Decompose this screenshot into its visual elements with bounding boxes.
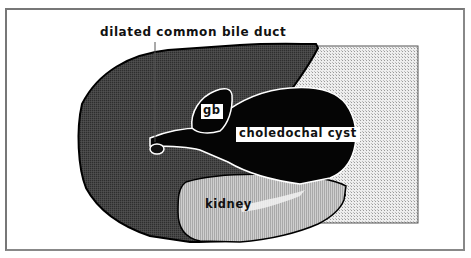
label-kidney: kidney bbox=[205, 199, 252, 211]
label-gb: gb bbox=[201, 104, 223, 119]
label-choledochal-cyst: choledochal cyst bbox=[236, 127, 360, 142]
duct-loop bbox=[150, 144, 164, 154]
label-dilated-common-bile-duct: dilated common bile duct bbox=[100, 26, 286, 38]
